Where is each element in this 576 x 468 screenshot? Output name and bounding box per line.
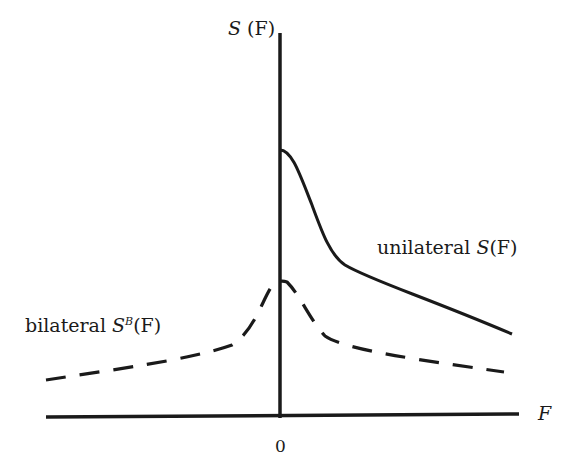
bilateral-symbol: S [112, 314, 125, 336]
unilateral-word: unilateral [377, 236, 470, 258]
unilateral-arg: (F) [489, 236, 517, 258]
bilateral-arg: (F) [133, 314, 161, 336]
y-axis-symbol: S [228, 17, 241, 39]
x-axis [46, 414, 519, 417]
y-axis-arg: (F) [247, 17, 275, 39]
x-axis-label: F [538, 402, 551, 424]
y-axis-label: S (F) [228, 17, 275, 39]
origin-label: 0 [275, 436, 286, 456]
psd-diagram: S (F) unilateral S(F) bilateral SB(F) F … [0, 0, 576, 468]
bilateral-word: bilateral [25, 314, 106, 336]
bilateral-label: bilateral SB(F) [25, 314, 161, 336]
unilateral-symbol: S [476, 236, 489, 258]
bilateral-superscript: B [125, 315, 133, 328]
unilateral-label: unilateral S(F) [377, 236, 517, 258]
diagram-svg [0, 0, 576, 468]
